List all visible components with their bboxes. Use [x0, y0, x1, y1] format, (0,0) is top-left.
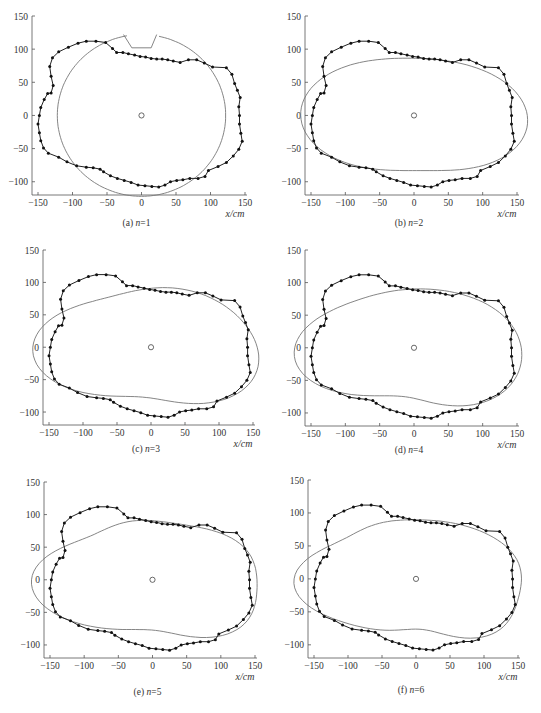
measured-point: [475, 295, 478, 298]
measured-point: [37, 123, 40, 126]
measured-point: [510, 114, 513, 117]
measured-point: [238, 123, 241, 126]
measured-point: [462, 640, 465, 643]
measured-point: [310, 355, 313, 358]
x-tick-label: 150: [238, 198, 253, 208]
measured-point: [510, 355, 513, 358]
measured-point: [513, 372, 516, 375]
measured-point: [203, 175, 206, 178]
measured-point: [67, 46, 70, 49]
measured-point: [166, 58, 169, 61]
measured-point: [54, 330, 57, 333]
measured-point: [324, 56, 327, 59]
measured-point: [338, 160, 341, 163]
measured-point: [358, 273, 361, 276]
measured-point: [423, 416, 426, 419]
measured-point: [38, 131, 41, 134]
measured-point: [384, 280, 387, 283]
y-tick-label: −100: [20, 640, 40, 650]
measured-point: [148, 647, 151, 650]
measured-point: [144, 56, 147, 59]
measured-point: [413, 519, 416, 522]
measured-point: [241, 538, 244, 541]
measured-point: [114, 274, 117, 277]
caption-label: (c): [132, 444, 145, 455]
measured-point: [237, 148, 240, 151]
measured-point: [86, 395, 89, 398]
measured-point: [325, 555, 328, 558]
panel-a: −100−50050100150−150−100−50050100150x/cm…: [8, 12, 252, 230]
measured-point: [358, 397, 361, 400]
measured-point: [161, 58, 164, 61]
measured-point: [409, 415, 412, 418]
x-tick-label: 50: [182, 661, 192, 671]
measured-point: [451, 294, 454, 297]
caption-value: =4: [413, 445, 423, 455]
measured-point: [213, 527, 216, 530]
measured-point: [227, 628, 230, 631]
measured-point: [161, 522, 164, 525]
measured-point: [212, 405, 215, 408]
measured-point: [61, 556, 64, 559]
measured-point: [188, 177, 191, 180]
measured-point: [408, 517, 411, 520]
measured-point: [239, 96, 242, 99]
measured-point: [511, 577, 514, 580]
y-tick-label: 50: [30, 310, 40, 320]
panel-caption: (c) n=3: [132, 444, 160, 455]
x-tick-label: 100: [212, 428, 227, 438]
measured-point: [341, 624, 344, 627]
measured-point: [391, 640, 394, 643]
measured-point: [146, 414, 149, 417]
measured-point: [349, 42, 352, 45]
measured-point: [179, 61, 182, 64]
measured-point: [155, 58, 158, 61]
measured-point: [505, 618, 508, 621]
measured-point: [123, 179, 126, 182]
measured-point: [416, 184, 419, 187]
center-marker: [150, 577, 155, 582]
measured-point: [360, 629, 363, 632]
measured-point: [509, 380, 512, 383]
measured-point: [225, 66, 228, 69]
panel-caption: (b) n=2: [395, 218, 424, 229]
measured-point: [411, 647, 414, 650]
measured-point: [316, 98, 319, 101]
measured-point: [87, 275, 90, 278]
measured-point: [402, 516, 405, 519]
y-tick-label: 150: [26, 478, 41, 488]
measured-point: [139, 411, 142, 414]
measured-point: [446, 523, 449, 526]
measured-point: [311, 363, 314, 366]
panel-b: −100−50050100150−150−100−50050100150x/cm…: [281, 12, 527, 230]
measured-point: [324, 290, 327, 293]
caption-value: =3: [150, 444, 160, 454]
measured-point: [170, 291, 173, 294]
measured-point: [444, 293, 447, 296]
measured-point: [50, 338, 53, 341]
x-tick-label: 50: [180, 428, 190, 438]
measured-point: [511, 132, 514, 135]
measured-point: [175, 179, 178, 182]
measured-point: [315, 146, 318, 149]
measured-point: [506, 546, 509, 549]
measured-point: [125, 284, 128, 287]
measured-point: [77, 279, 80, 282]
measured-point: [386, 511, 389, 514]
measured-point: [120, 638, 123, 641]
measured-point: [340, 279, 343, 282]
measured-point: [99, 168, 102, 171]
measured-point: [409, 184, 412, 187]
y-tick-label: 150: [14, 12, 29, 22]
measured-point: [161, 648, 164, 651]
x-tick-label: −50: [372, 198, 387, 208]
measured-point: [433, 291, 436, 294]
measured-point: [510, 346, 513, 349]
x-tick-label: 0: [412, 429, 417, 439]
measured-point: [321, 298, 324, 301]
measured-point: [180, 643, 183, 646]
caption-label: (f): [398, 685, 410, 696]
measured-point: [417, 289, 420, 292]
measured-point: [233, 82, 236, 85]
measured-point: [95, 273, 98, 276]
